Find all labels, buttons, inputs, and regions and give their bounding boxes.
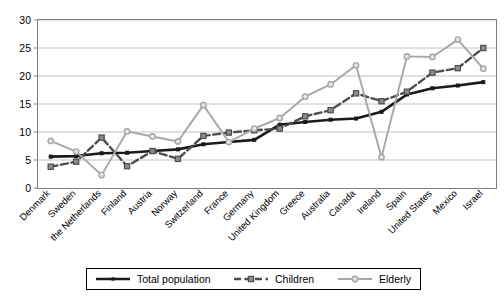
x-axis-label: Ireland xyxy=(355,188,383,216)
x-axis-label: Israel xyxy=(460,188,484,212)
data-point xyxy=(202,143,205,146)
data-point xyxy=(226,130,231,135)
data-point xyxy=(277,115,282,120)
data-point xyxy=(150,134,155,139)
data-point xyxy=(430,70,435,75)
y-tick-label: 30 xyxy=(19,14,31,26)
data-point xyxy=(430,54,435,59)
chart-container: 051015202530 DenmarkSwedenthe Netherland… xyxy=(0,0,504,297)
y-tick-label: 5 xyxy=(25,154,31,166)
legend-label: Children xyxy=(275,273,314,285)
y-tick-label: 20 xyxy=(19,70,31,82)
legend-marker xyxy=(111,277,114,280)
x-axis-category-labels: DenmarkSwedenthe NetherlandsFinlandAustr… xyxy=(17,187,485,243)
series-elderly xyxy=(48,37,486,178)
data-point xyxy=(404,54,409,59)
data-point xyxy=(126,151,129,154)
line-chart: 051015202530 DenmarkSwedenthe Netherland… xyxy=(0,0,504,297)
y-tick-label: 10 xyxy=(19,126,31,138)
data-point xyxy=(431,87,434,90)
data-point xyxy=(455,66,460,71)
data-point xyxy=(73,149,78,154)
data-point xyxy=(99,135,104,140)
data-point xyxy=(355,117,358,120)
data-point xyxy=(379,155,384,160)
data-point xyxy=(304,120,307,123)
data-point xyxy=(353,63,358,68)
data-point xyxy=(48,138,53,143)
data-point xyxy=(176,148,179,151)
data-point xyxy=(252,126,257,131)
data-point xyxy=(303,114,308,119)
data-point xyxy=(201,133,206,138)
data-point xyxy=(329,118,332,121)
series-total-population xyxy=(49,81,485,158)
series-line xyxy=(51,82,484,156)
y-tick-label: 15 xyxy=(19,98,31,110)
data-point xyxy=(404,89,409,94)
data-point xyxy=(99,172,104,177)
series-lines xyxy=(48,37,486,178)
data-point xyxy=(150,148,155,153)
data-point xyxy=(379,99,384,104)
data-point xyxy=(201,102,206,107)
legend-label: Total population xyxy=(137,273,211,285)
y-tick-label: 25 xyxy=(19,42,31,54)
data-point xyxy=(124,129,129,134)
legend-marker xyxy=(352,276,357,281)
data-point xyxy=(226,139,231,144)
data-point xyxy=(124,164,129,169)
data-point xyxy=(175,139,180,144)
data-point xyxy=(253,138,256,141)
data-point xyxy=(277,126,282,131)
data-point xyxy=(302,94,307,99)
x-axis-label: Mexico xyxy=(430,188,459,217)
data-point xyxy=(75,155,78,158)
legend-marker xyxy=(248,276,253,281)
y-tick-label: 0 xyxy=(25,182,31,194)
data-point xyxy=(456,84,459,87)
data-point xyxy=(380,110,383,113)
data-point xyxy=(353,91,358,96)
data-point xyxy=(74,159,79,164)
data-point xyxy=(481,66,486,71)
data-point xyxy=(100,152,103,155)
data-point xyxy=(328,82,333,87)
data-point xyxy=(455,37,460,42)
data-point xyxy=(328,108,333,113)
data-point xyxy=(48,164,53,169)
x-axis-label: Canada xyxy=(326,187,358,219)
series-children xyxy=(48,45,486,169)
x-axis-label: Denmark xyxy=(17,187,52,222)
data-point xyxy=(482,81,485,84)
x-axis-label: Finland xyxy=(99,188,129,218)
data-point xyxy=(481,45,486,50)
series-line xyxy=(51,48,484,167)
y-axis-labels: 051015202530 xyxy=(19,14,31,194)
chart-legend: Total populationChildrenElderly xyxy=(87,269,421,290)
legend-label: Elderly xyxy=(379,273,412,285)
series-line xyxy=(51,40,484,176)
data-point xyxy=(175,156,180,161)
data-point xyxy=(49,155,52,158)
